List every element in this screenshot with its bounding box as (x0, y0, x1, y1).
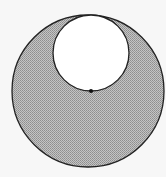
center-point (89, 89, 93, 93)
circle-diagram (0, 0, 166, 177)
inner-white-circle (53, 15, 129, 91)
